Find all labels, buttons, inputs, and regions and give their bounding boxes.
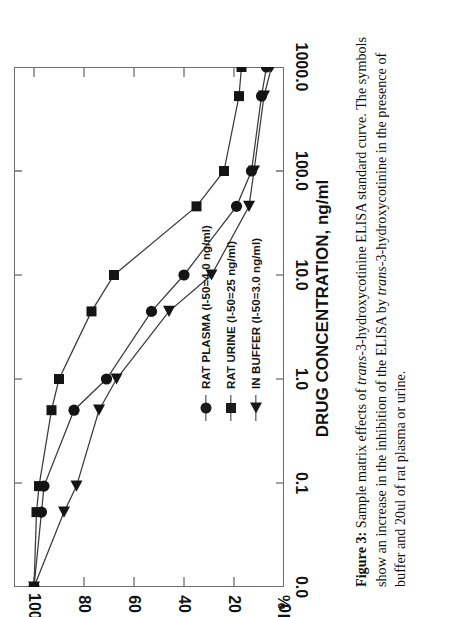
y-axis-title: % MAXIMUM OPTICAL DENSITY, 650 nm [274,595,292,617]
legend-label-2: IN BUFFER (I-50=3.0 ng/ml) [250,238,262,389]
caption-italic-2: trans [373,266,389,295]
legend-label-1: RAT URINE (I-50=25 ng/ml) [225,241,237,389]
caption-figure-label: Figure 3: [353,532,369,587]
x-tick-label-5: 1000.0 [292,43,310,92]
x-tick-label-1: 0.1 [292,472,310,494]
y-tick-label-1: 20 [225,593,243,613]
x-tick-label-4: 100.0 [292,151,310,191]
y-tick-label-3: 60 [125,593,143,613]
rotated-figure-shell: 0.00.11.010.0100.01000.0 020406080100 DR… [0,0,459,617]
caption-text-4: -3-hydroxycotinine in the [373,121,389,266]
legend-triangle-icon [248,395,264,421]
legend-label-0: RAT PLASMA (I-50=4.0 ng/ml) [200,225,212,389]
y-tick-label-2: 40 [175,593,193,613]
x-tick-label-3: 10.0 [292,259,310,290]
chart-legend: RAT PLASMA (I-50=4.0 ng/ml)RAT URINE (I-… [196,225,271,421]
x-tick-label-2: 1.0 [292,368,310,390]
legend-item-circle: RAT PLASMA (I-50=4.0 ng/ml) [196,225,216,421]
caption-text-2: -3-hydroxycotinine ELISA standard curve.… [353,88,369,356]
caption-text-1: Sample matrix effects of [353,389,369,529]
y-tick-label-4: 80 [75,593,93,613]
legend-square-icon [223,395,239,421]
figure-caption: Figure 3: Sample matrix effects of trans… [352,27,411,587]
legend-item-triangle: IN BUFFER (I-50=3.0 ng/ml) [246,225,266,421]
figure-3: 0.00.11.010.0100.01000.0 020406080100 DR… [0,0,459,617]
caption-italic-1: trans [353,356,369,385]
x-axis-title: DRUG CONCENTRATION, ng/ml [313,180,333,438]
legend-circle-icon [198,395,214,421]
x-tick-label-0: 0.0 [292,576,310,598]
legend-item-square: RAT URINE (I-50=25 ng/ml) [221,225,241,421]
y-tick-label-5: 100 [25,593,43,613]
